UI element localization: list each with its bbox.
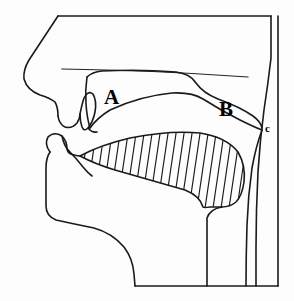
label-A: A <box>104 85 120 109</box>
palate-front-junction <box>86 77 90 128</box>
nose-tip-nostril <box>58 114 80 128</box>
pharynx-back-wall <box>256 16 271 286</box>
upper-tooth-edge <box>88 128 97 132</box>
pharynx-group <box>207 16 271 286</box>
label-c: c <box>265 122 270 134</box>
labels-group: A B c <box>104 85 270 134</box>
upper-teeth-group <box>80 93 97 133</box>
lower-lip-outline <box>46 134 80 156</box>
lower-jaw-group <box>46 134 135 286</box>
forehead-nose-profile <box>24 16 58 116</box>
tongue-group <box>60 120 266 215</box>
tongue-hatching <box>60 120 266 215</box>
label-B: B <box>219 97 233 121</box>
tongue-root-wall <box>207 207 222 286</box>
vocal-tract-diagram: A B c <box>0 0 294 301</box>
sagittal-section-illustration: A B c <box>0 0 294 301</box>
lower-teeth-edge <box>69 151 92 176</box>
